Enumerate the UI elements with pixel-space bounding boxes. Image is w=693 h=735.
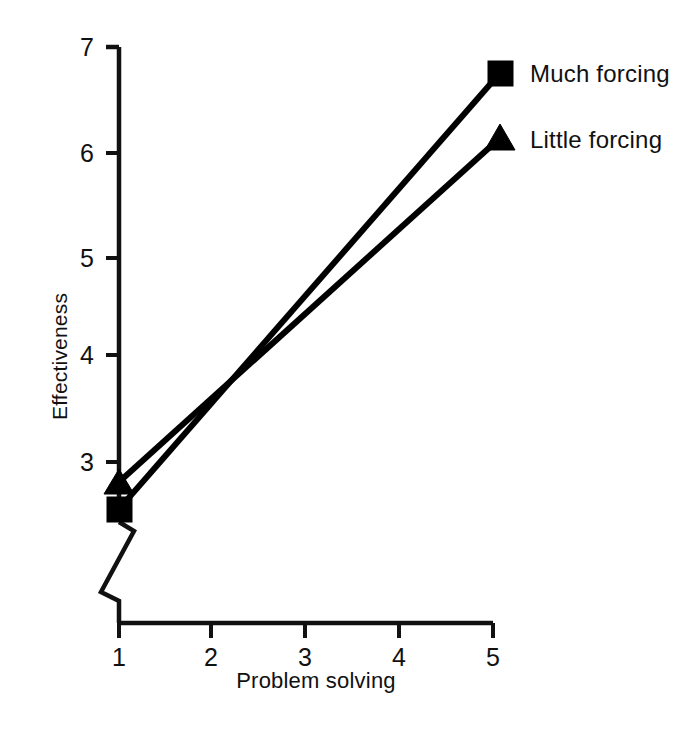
marker-square-much-forcing-x1 bbox=[107, 497, 132, 522]
y-tick-label-6: 6 bbox=[66, 141, 94, 166]
series-line-much-forcing bbox=[119, 73, 500, 509]
y-axis-title: Effectiveness bbox=[48, 293, 72, 420]
series-line-little-forcing bbox=[119, 138, 500, 482]
y-tick-label-3: 3 bbox=[66, 450, 94, 475]
legend-label-much-forcing: Much forcing bbox=[530, 60, 670, 88]
x-axis-title: Problem solving bbox=[196, 668, 436, 694]
x-tick-label-1: 1 bbox=[112, 645, 126, 670]
x-tick-label-5: 5 bbox=[486, 645, 500, 670]
chart-figure: 7 6 5 4 3 1 2 3 4 5 Effectiveness Proble… bbox=[0, 0, 693, 735]
y-tick-label-5: 5 bbox=[66, 246, 94, 271]
x-tick-label-2: 2 bbox=[204, 645, 218, 670]
marker-triangle-little-forcing-x5 bbox=[485, 124, 515, 150]
y-axis-break-zigzag bbox=[101, 522, 134, 623]
chart-plot-area bbox=[0, 0, 693, 735]
x-tick-label-3: 3 bbox=[298, 645, 312, 670]
x-tick-label-4: 4 bbox=[392, 645, 406, 670]
marker-square-much-forcing-x5 bbox=[488, 61, 513, 86]
legend-label-little-forcing: Little forcing bbox=[530, 126, 662, 154]
y-tick-label-7: 7 bbox=[66, 35, 94, 60]
